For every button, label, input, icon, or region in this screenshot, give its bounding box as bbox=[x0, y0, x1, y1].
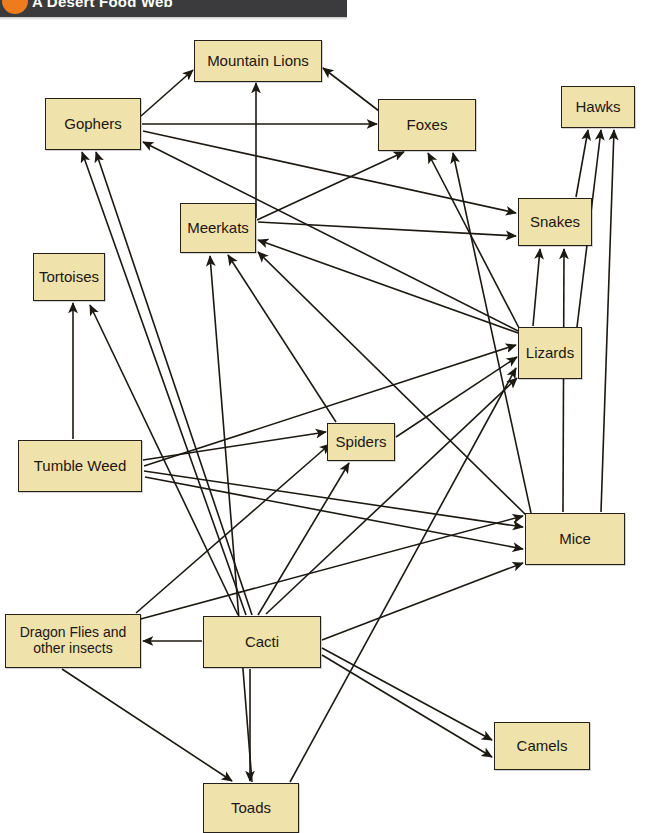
node-mice[interactable]: Mice bbox=[525, 513, 625, 565]
node-label: Camels bbox=[517, 738, 568, 755]
edge-toads-to-lizards bbox=[290, 368, 516, 782]
node-label: Spiders bbox=[336, 434, 387, 451]
edge-meerkats-to-snakes bbox=[258, 222, 516, 236]
edge-foxes-to-mountain_lions bbox=[323, 68, 379, 111]
node-lizards[interactable]: Lizards bbox=[518, 327, 582, 379]
edge-mice-to-meerkats bbox=[258, 252, 526, 515]
node-label: Toads bbox=[231, 800, 271, 817]
node-cacti[interactable]: Cacti bbox=[203, 616, 321, 668]
node-label: Cacti bbox=[245, 634, 279, 651]
node-tumble_weed[interactable]: Tumble Weed bbox=[18, 440, 142, 492]
node-mountain_lions[interactable]: Mountain Lions bbox=[194, 40, 322, 82]
node-camels[interactable]: Camels bbox=[494, 722, 590, 770]
node-dragon_flies[interactable]: Dragon Flies and other insects bbox=[5, 614, 141, 668]
edge-lizards-to-foxes bbox=[428, 153, 519, 328]
edge-lizards-to-snakes bbox=[533, 249, 540, 326]
node-label: Mice bbox=[559, 531, 591, 548]
node-label: Lizards bbox=[526, 345, 574, 362]
edge-toads-to-meerkats bbox=[210, 256, 252, 782]
node-label: Snakes bbox=[530, 214, 580, 231]
node-hawks[interactable]: Hawks bbox=[561, 86, 635, 128]
edge-mice-to-hawks bbox=[601, 130, 614, 512]
orange-circle-icon bbox=[2, 0, 28, 14]
edge-cacti-to-camels bbox=[322, 655, 492, 757]
edge-gophers-to-mountain_lions bbox=[141, 70, 193, 116]
node-label: Mountain Lions bbox=[207, 53, 309, 70]
node-meerkats[interactable]: Meerkats bbox=[180, 203, 256, 253]
edge-mice-to-snakes bbox=[563, 249, 564, 512]
node-label: Gophers bbox=[64, 116, 122, 133]
edge-dragon_flies-to-toads bbox=[62, 669, 232, 781]
node-toads[interactable]: Toads bbox=[203, 783, 299, 833]
page-title: A Desert Food Web bbox=[32, 0, 173, 10]
edge-spiders-to-meerkats bbox=[228, 255, 336, 422]
edge-cacti-to-spiders bbox=[258, 463, 349, 615]
node-tortoises[interactable]: Tortoises bbox=[33, 253, 105, 301]
edge-dragon_flies-to-spiders bbox=[136, 444, 330, 613]
node-label: Meerkats bbox=[187, 220, 249, 237]
edge-lizards-to-meerkats bbox=[258, 240, 518, 333]
node-snakes[interactable]: Snakes bbox=[518, 198, 592, 246]
edge-cacti-to-mice bbox=[322, 563, 523, 640]
node-label: Dragon Flies and other insects bbox=[9, 625, 137, 656]
node-label: Tortoises bbox=[39, 269, 99, 286]
edge-spiders-to-lizards bbox=[396, 357, 517, 437]
edge-tumble_weed-to-mice bbox=[144, 471, 523, 527]
node-gophers[interactable]: Gophers bbox=[45, 98, 141, 150]
node-spiders[interactable]: Spiders bbox=[327, 423, 395, 461]
node-label: Tumble Weed bbox=[34, 458, 127, 475]
food-web-page: A Desert Food Web Mountain LionsGophersF… bbox=[0, 0, 651, 833]
edge-cacti-to-camels bbox=[322, 648, 492, 740]
node-foxes[interactable]: Foxes bbox=[378, 99, 476, 151]
edge-snakes-to-hawks bbox=[576, 130, 588, 197]
node-label: Hawks bbox=[575, 99, 620, 116]
banner-shadow bbox=[0, 17, 347, 20]
node-label: Foxes bbox=[407, 117, 448, 134]
edge-dragon_flies-to-mice bbox=[137, 516, 523, 620]
page-banner: A Desert Food Web bbox=[0, 0, 347, 17]
